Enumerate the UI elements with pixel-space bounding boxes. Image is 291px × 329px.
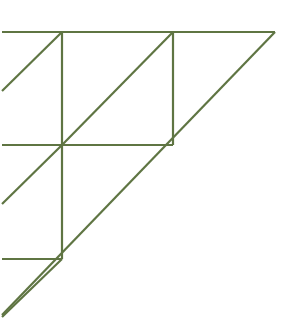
recursive-triangle-svg [0, 0, 291, 329]
figure-canvas [0, 0, 291, 329]
